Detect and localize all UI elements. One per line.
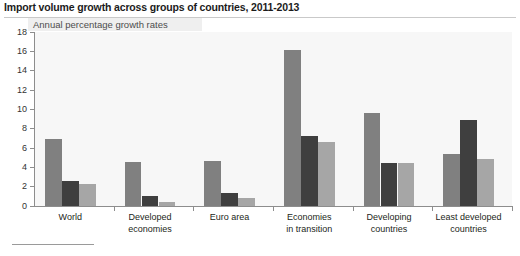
y-axis-tick: 2 (0, 181, 34, 192)
y-axis-tick: 12 (0, 85, 34, 96)
y-axis-tick: 6 (0, 143, 34, 154)
x-axis-tick-mark (512, 206, 513, 211)
bar (79, 184, 96, 206)
bar (62, 181, 79, 206)
y-axis-tick-label: 4 (22, 162, 27, 173)
bar (398, 163, 415, 207)
page-title: Import volume growth across groups of co… (4, 1, 516, 13)
bar (460, 120, 477, 206)
y-axis-tick: 10 (0, 104, 34, 115)
x-axis-tick-mark (193, 206, 194, 211)
bar (142, 196, 159, 206)
y-axis-tick-label: 14 (17, 65, 27, 76)
y-axis-tick: 8 (0, 123, 34, 134)
x-axis-category-label: Least developedcountries (429, 212, 509, 235)
y-axis-tick-label: 6 (22, 143, 27, 154)
bar (318, 142, 335, 206)
x-axis-tick-mark (432, 206, 433, 211)
figure-container: Import volume growth across groups of co… (0, 0, 520, 256)
y-axis-tick-label: 12 (17, 85, 27, 96)
footer-divider (12, 244, 94, 245)
bar (477, 159, 494, 206)
y-axis-tick-label: 16 (17, 46, 27, 57)
bars-layer (34, 32, 512, 206)
x-axis-category-label: World (30, 212, 110, 224)
y-axis-tick-label: 0 (22, 201, 27, 212)
x-axis-tick-mark (353, 206, 354, 211)
bar (364, 113, 381, 206)
bar (125, 162, 142, 206)
x-axis-category-label: Developedeconomies (110, 212, 190, 235)
chart-subtitle: Annual percentage growth rates (33, 19, 168, 30)
x-axis-category-label: Developingcountries (349, 212, 429, 235)
y-axis-tick: 16 (0, 46, 34, 57)
y-axis-tick-label: 10 (17, 104, 27, 115)
bar (45, 139, 62, 206)
bar (301, 136, 318, 206)
y-axis-tick: 0 (0, 201, 34, 212)
y-axis-tick: 14 (0, 65, 34, 76)
y-axis-tick-label: 2 (22, 181, 27, 192)
x-axis-tick-mark (114, 206, 115, 211)
bar (221, 193, 238, 206)
bar (204, 161, 221, 206)
x-axis-tick-mark (273, 206, 274, 211)
x-axis-category-label: Economiesin transition (269, 212, 349, 235)
x-axis-category-label: Euro area (190, 212, 270, 224)
y-axis-tick: 4 (0, 162, 34, 173)
bar (238, 198, 255, 206)
bar (284, 50, 301, 206)
y-axis-tick: 18 (0, 27, 34, 38)
y-axis-tick-label: 18 (17, 27, 27, 38)
y-axis-tick-label: 8 (22, 123, 27, 134)
bar (443, 154, 460, 206)
bar (381, 163, 398, 207)
